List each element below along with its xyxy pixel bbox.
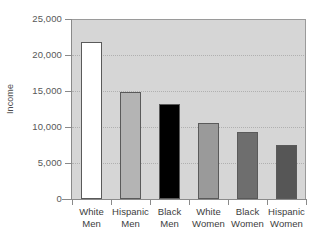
category-labels: WhiteMenHispanicMenBlackMenWhiteWomenBla… [72,206,306,246]
y-axis-line [71,19,72,200]
income-bar-chart: Income 05,00010,00015,00020,00025,000 Wh… [0,0,316,248]
y-tick-label: 15,000 [18,85,62,96]
y-tick-label: 20,000 [18,49,62,60]
y-tick-label: 0 [18,193,62,204]
y-tick-mark [65,127,72,128]
y-tick-label: 5,000 [18,157,62,168]
x-tick-mark [228,199,229,205]
y-axis-ticks: 05,00010,00015,00020,00025,000 [16,0,62,248]
bar [276,145,297,199]
category-label-line1: Hispanic [263,206,310,218]
x-tick-mark [306,199,307,205]
x-axis-line [62,199,306,200]
x-tick-mark [72,199,73,205]
bar [159,104,180,199]
bar [120,92,141,199]
y-tick-mark [65,163,72,164]
y-tick-label: 10,000 [18,121,62,132]
bar [81,42,102,199]
bar [237,132,258,199]
category-label-line2: Women [263,218,310,230]
y-tick-mark [65,199,72,200]
x-tick-mark [150,199,151,205]
x-tick-mark [111,199,112,205]
y-tick-mark [65,55,72,56]
x-tick-mark [189,199,190,205]
y-tick-label: 25,000 [18,13,62,24]
y-tick-mark [65,19,72,20]
y-tick-mark [65,91,72,92]
bars-layer [72,19,306,199]
bar [198,123,219,199]
x-tick-mark [267,199,268,205]
y-axis-title: Income [5,67,15,131]
category-label: HispanicWomen [263,206,310,229]
